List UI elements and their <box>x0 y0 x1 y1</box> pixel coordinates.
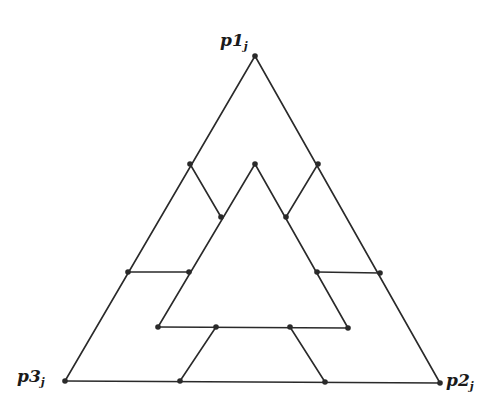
edge-line <box>158 164 255 327</box>
vertex-dot <box>213 324 219 330</box>
triangle-diagram <box>0 0 503 413</box>
label-p3-base: p3 <box>17 366 41 386</box>
edge-line <box>65 56 255 381</box>
edge-line <box>190 164 221 217</box>
edge-line <box>65 381 440 383</box>
edge-line <box>286 164 318 217</box>
edge-line <box>255 56 440 383</box>
vertex-dot <box>252 53 258 59</box>
label-p2: p2j <box>446 372 474 392</box>
diagram-edges <box>65 56 440 383</box>
label-p1-base: p1 <box>220 30 244 50</box>
label-p1-sub: j <box>244 40 248 53</box>
vertex-dot <box>283 214 289 220</box>
edge-line <box>180 327 216 381</box>
vertex-dot <box>287 324 293 330</box>
vertex-dot <box>345 325 351 331</box>
label-p1: p1j <box>220 32 248 52</box>
vertex-dot <box>155 324 161 330</box>
vertex-dot <box>186 269 192 275</box>
vertex-dot <box>177 378 183 384</box>
edge-line <box>290 327 325 382</box>
diagram-vertices <box>62 53 443 386</box>
vertex-dot <box>252 161 258 167</box>
edge-line <box>255 164 348 328</box>
vertex-dot <box>62 378 68 384</box>
edge-line <box>317 272 380 273</box>
label-p3-sub: j <box>41 376 45 389</box>
label-p3: p3j <box>17 368 45 388</box>
vertex-dot <box>437 380 443 386</box>
vertex-dot <box>377 270 383 276</box>
vertex-dot <box>315 161 321 167</box>
edge-line <box>158 327 348 328</box>
label-p2-base: p2 <box>446 370 470 390</box>
vertex-dot <box>322 379 328 385</box>
vertex-dot <box>187 161 193 167</box>
vertex-dot <box>218 214 224 220</box>
vertex-dot <box>314 269 320 275</box>
vertex-dot <box>125 269 131 275</box>
label-p2-sub: j <box>470 380 474 393</box>
